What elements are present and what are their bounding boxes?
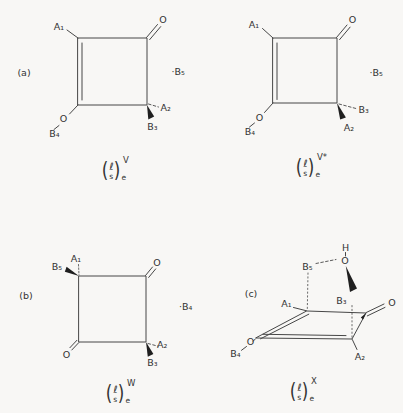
atom-label-b5: B₅ bbox=[52, 261, 63, 272]
atom-label-a1: A₁ bbox=[54, 21, 64, 32]
wedge-bond-b5 bbox=[65, 267, 79, 276]
atom-label-a1: A₁ bbox=[249, 19, 259, 30]
caption-v-star: ( ℓ s ) V* e bbox=[295, 153, 329, 180]
atom-label-enol-o: O bbox=[247, 336, 254, 347]
atom-label-a1: A₁ bbox=[281, 298, 291, 309]
caption-w-denominator: s bbox=[113, 396, 117, 404]
atom-label-carbonyl-o: O bbox=[388, 297, 395, 308]
atom-label-carbonyl-o-bottom: O bbox=[63, 349, 70, 360]
structure-v-drawing: (a) A₁ O ·B₅ A₂ B₃ O B₄ bbox=[0, 0, 200, 200]
caption-v-star-close-paren: ) bbox=[308, 154, 315, 180]
panel-label-b: (b) bbox=[19, 290, 32, 301]
atom-label-a2: A₂ bbox=[344, 122, 354, 133]
caption-v-star-superscript: V* bbox=[317, 152, 327, 162]
atom-label-a2: A₂ bbox=[355, 351, 365, 362]
structure-v-star-bonds bbox=[250, 25, 357, 127]
caption-x-close-paren: ) bbox=[302, 378, 309, 404]
atom-label-b4: B₄ bbox=[245, 126, 256, 137]
caption-x-numerator: ℓ bbox=[297, 383, 301, 393]
atom-label-carbonyl-o: O bbox=[159, 14, 166, 25]
caption-v-star-fraction: ℓ s bbox=[303, 156, 307, 177]
figure-canvas: (a) A₁ O ·B₅ A₂ B₃ O B₄ bbox=[0, 0, 403, 413]
atom-label-a1: A₁ bbox=[71, 253, 81, 264]
atom-label-b3: B₃ bbox=[147, 121, 158, 132]
atom-label-b3: B₃ bbox=[359, 104, 370, 115]
caption-w-numerator: ℓ bbox=[113, 385, 117, 395]
atom-label-h: H bbox=[342, 242, 349, 253]
atom-label-enol-o: O bbox=[60, 113, 67, 124]
atom-label-b3: B₃ bbox=[336, 295, 347, 306]
structure-x-bonds bbox=[242, 253, 386, 351]
radical-label-b5: ·B₅ bbox=[172, 66, 186, 77]
caption-x-open-paren: ( bbox=[290, 378, 297, 404]
structure-w-bonds bbox=[65, 265, 158, 357]
atom-label-b5: B₅ bbox=[302, 261, 313, 272]
atom-label-b4: B₄ bbox=[49, 128, 60, 139]
caption-v-numerator: ℓ bbox=[109, 162, 113, 172]
caption-x: ( ℓ s ) X e bbox=[289, 377, 323, 404]
caption-v: ( ℓ s ) V e bbox=[101, 156, 135, 183]
caption-w-superscript: W bbox=[127, 378, 135, 388]
caption-v-star-open-paren: ( bbox=[296, 154, 303, 180]
atom-label-a2: A₂ bbox=[157, 339, 167, 350]
caption-v-superscript: V bbox=[123, 155, 129, 165]
caption-x-scripts: X e bbox=[310, 377, 323, 404]
caption-w-subscript: e bbox=[126, 396, 131, 405]
wedge-bond-b3 bbox=[346, 266, 357, 292]
atom-label-carbonyl-o-top: O bbox=[153, 257, 160, 268]
atom-label-hydroxyl-o: O bbox=[341, 255, 348, 266]
caption-w-open-paren: ( bbox=[106, 380, 113, 406]
caption-v-star-subscript: e bbox=[316, 170, 321, 179]
caption-x-denominator: s bbox=[297, 394, 301, 402]
caption-v-subscript: e bbox=[122, 173, 127, 182]
caption-w: ( ℓ s ) W e bbox=[105, 379, 139, 406]
caption-x-fraction: ℓ s bbox=[297, 380, 301, 401]
radical-label-b4: ·B₄ bbox=[179, 301, 193, 312]
atom-label-enol-o: O bbox=[256, 112, 263, 123]
caption-v-open-paren: ( bbox=[102, 157, 109, 183]
caption-x-subscript: e bbox=[310, 394, 315, 403]
caption-v-close-paren: ) bbox=[114, 157, 121, 183]
caption-v-denominator: s bbox=[109, 173, 113, 181]
caption-w-fraction: ℓ s bbox=[113, 382, 117, 403]
caption-x-superscript: X bbox=[311, 376, 317, 386]
atom-label-carbonyl-o: O bbox=[349, 14, 356, 25]
caption-v-scripts: V e bbox=[122, 156, 135, 183]
atom-label-a2: A₂ bbox=[161, 102, 171, 113]
wedge-bond-b3 bbox=[147, 105, 154, 120]
radical-label-b5: ·B₅ bbox=[370, 67, 384, 78]
wedge-carbonyl-corner bbox=[361, 313, 366, 320]
structure-v-bonds bbox=[54, 25, 161, 130]
caption-w-close-paren: ) bbox=[118, 380, 125, 406]
caption-v-star-denominator: s bbox=[303, 170, 307, 178]
structure-w-drawing: (b) A₁ B₅ O O A₂ B₃ ·B₄ bbox=[0, 200, 200, 413]
caption-v-fraction: ℓ s bbox=[109, 159, 113, 180]
caption-v-star-numerator: ℓ bbox=[303, 159, 307, 169]
atom-label-b3: B₃ bbox=[147, 357, 158, 368]
panel-label-a: (a) bbox=[17, 67, 30, 78]
atom-label-b4: B₄ bbox=[230, 348, 241, 359]
caption-v-star-scripts: V* e bbox=[316, 153, 329, 180]
panel-label-c: (c) bbox=[245, 288, 258, 299]
caption-w-scripts: W e bbox=[126, 379, 139, 406]
